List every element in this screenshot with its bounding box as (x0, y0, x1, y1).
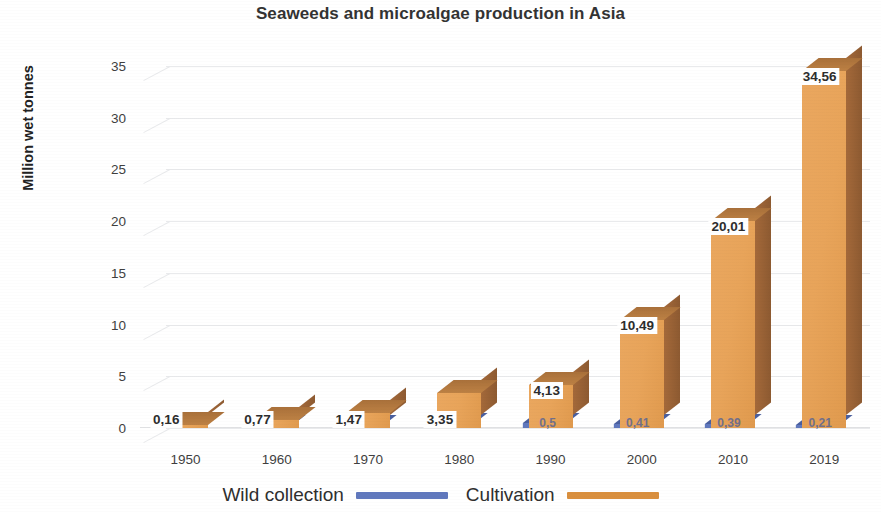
bar-value-label-wild: 0,41 (626, 416, 649, 430)
legend-item[interactable]: Wild collection (222, 484, 447, 506)
y-axis-tick-label: 5 (118, 369, 126, 384)
bar-value-label: 0,77 (241, 411, 273, 428)
x-axis-tick-label: 2019 (779, 452, 870, 467)
bar-value-label-wild: 0,5 (539, 416, 556, 430)
bar-category[interactable]: 0,54,13 (505, 40, 596, 428)
legend-swatch (567, 492, 659, 499)
y-axis-tick-label: 35 (111, 59, 126, 74)
legend-label: Cultivation (466, 484, 555, 506)
x-axis-tick-label: 1990 (505, 452, 596, 467)
axis-floor (140, 427, 870, 445)
bar-category[interactable]: 0,4110,49 (596, 40, 687, 428)
bar-category[interactable]: 0,2134,56 (779, 40, 870, 428)
plot-area: 05101520253035 0,160,771,473,350,54,130,… (140, 40, 870, 445)
bar-cultivation[interactable] (711, 208, 755, 428)
bar-category[interactable]: 0,16 (140, 40, 231, 428)
bar-front-face (802, 71, 846, 428)
y-axis-tick-label: 30 (111, 110, 126, 125)
x-axis-tick-label: 2010 (688, 452, 779, 467)
y-axis-tick-label: 15 (111, 265, 126, 280)
bar-category[interactable]: 1,47 (323, 40, 414, 428)
y-axis-tick-label: 0 (118, 421, 126, 436)
x-axis-tick-label: 1970 (323, 452, 414, 467)
x-axis-ticks: 19501960197019801990200020102019 (140, 452, 870, 467)
legend-label: Wild collection (222, 484, 343, 506)
bar-category[interactable]: 0,77 (231, 40, 322, 428)
x-axis-tick-label: 1950 (140, 452, 231, 467)
legend-item[interactable]: Cultivation (466, 484, 659, 506)
bar-value-label: 20,01 (708, 218, 748, 235)
bar-front-face (711, 221, 755, 428)
bar-cultivation[interactable] (802, 58, 846, 428)
bar-side-face (573, 360, 589, 415)
bar-value-label: 3,35 (424, 411, 456, 428)
bar-side-face (755, 196, 771, 415)
bar-group: 0,160,771,473,350,54,130,4110,490,3920,0… (140, 40, 870, 428)
x-axis-tick-label: 1980 (414, 452, 505, 467)
bar-value-label-wild: 0,21 (808, 416, 831, 430)
bar-side-face (846, 45, 862, 415)
y-axis-tick-label: 25 (111, 162, 126, 177)
bar-category[interactable]: 0,3920,01 (688, 40, 779, 428)
x-axis-tick-label: 1960 (231, 452, 322, 467)
bar-category[interactable]: 3,35 (414, 40, 505, 428)
bar-side-face (481, 368, 497, 415)
y-axis-title: Million wet tonnes (20, 38, 36, 218)
x-axis-tick-label: 2000 (596, 452, 687, 467)
bar-value-label: 0,16 (150, 411, 182, 428)
chart-legend: Wild collectionCultivation (0, 484, 881, 506)
bar-value-label-wild: 0,39 (717, 416, 740, 430)
y-axis-tick-label: 20 (111, 214, 126, 229)
bar-value-label: 10,49 (617, 317, 657, 334)
bar-value-label: 1,47 (333, 411, 365, 428)
bar-value-label: 4,13 (531, 382, 563, 399)
bar-front-face (620, 320, 664, 428)
y-axis-tick-label: 10 (111, 317, 126, 332)
bar-value-label: 34,56 (800, 68, 840, 85)
legend-swatch (356, 492, 448, 499)
chart-canvas: Seaweeds and microalgae production in As… (0, 0, 881, 512)
chart-title: Seaweeds and microalgae production in As… (0, 4, 881, 24)
